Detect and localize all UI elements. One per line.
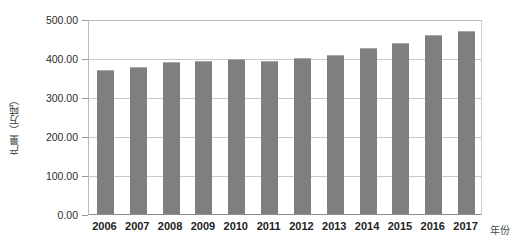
- x-tick-label: 2007: [125, 220, 149, 232]
- bar-2016: [425, 35, 442, 214]
- x-tick-label: 2012: [289, 220, 313, 232]
- x-tick-label: 2006: [92, 220, 116, 232]
- bar-2014: [360, 48, 377, 214]
- x-tick-label: 2015: [388, 220, 412, 232]
- x-tick-label: 2011: [257, 220, 281, 232]
- y-tick-label: 0.00: [58, 209, 78, 221]
- bar-2008: [163, 62, 180, 214]
- bar-2017: [458, 31, 475, 214]
- y-tick-label: 100.00: [46, 170, 78, 182]
- y-tick-label: 500.00: [46, 14, 78, 26]
- x-tick-label: 2009: [191, 220, 215, 232]
- bar-2011: [261, 61, 278, 214]
- y-axis-title-label: 产量（万吨）: [10, 95, 21, 155]
- y-axis-title: 产量（万吨）: [4, 62, 26, 188]
- bar-2015: [392, 43, 409, 214]
- bar-2007: [130, 67, 147, 214]
- x-tick-label: 2013: [322, 220, 346, 232]
- x-axis-title: 年份: [490, 222, 510, 237]
- x-tick-label: 2017: [453, 220, 477, 232]
- bar-2013: [327, 55, 344, 214]
- bar-2010: [228, 59, 245, 214]
- y-tick-label: 400.00: [46, 53, 78, 65]
- y-tick-label: 300.00: [46, 92, 78, 104]
- x-tick-label: 2008: [158, 220, 182, 232]
- y-axis-tick-labels: 0.00 100.00 200.00 300.00 400.00 500.00: [26, 0, 82, 252]
- x-tick-label: 2010: [224, 220, 248, 232]
- bar-2012: [294, 58, 311, 214]
- x-axis-tick-labels: 2006 2007 2008 2009 2010 2011 2012 2013 …: [88, 220, 482, 238]
- bars-layer: [89, 21, 481, 214]
- bar-2009: [195, 61, 212, 214]
- y-tick-label: 200.00: [46, 131, 78, 143]
- y-tick-mark: [82, 215, 88, 216]
- bar-2006: [97, 70, 114, 214]
- x-tick-label: 2014: [355, 220, 379, 232]
- chart-screenshot: 产量（万吨） 0.00 100.00 200.00 300.00 400.00 …: [0, 0, 527, 252]
- plot-area: [88, 20, 482, 215]
- x-tick-label: 2016: [421, 220, 445, 232]
